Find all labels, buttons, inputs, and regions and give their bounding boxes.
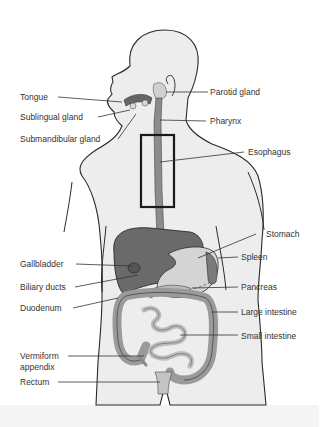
label-parotid-gland: Parotid gland: [210, 87, 260, 97]
label-sublingual-gland: Sublingual gland: [20, 112, 83, 122]
label-duodenum: Duodenum: [20, 303, 62, 313]
label-biliary-ducts: Biliary ducts: [20, 282, 66, 292]
gallbladder: [128, 263, 140, 273]
label-tongue: Tongue: [20, 92, 48, 102]
label-vermiform: Vermiform: [20, 351, 59, 361]
label-esophagus: Esophagus: [248, 147, 291, 157]
label-spleen: Spleen: [241, 252, 267, 262]
label-rectum: Rectum: [20, 377, 49, 387]
label-submandibular-gland: Submandibular gland: [20, 134, 100, 144]
label-gallbladder: Gallbladder: [20, 259, 63, 269]
label-pharynx: Pharynx: [210, 116, 241, 126]
label-stomach: Stomach: [266, 229, 300, 239]
label-large-intestine: Large intestine: [241, 307, 297, 317]
label-pancreas: Pancreas: [241, 282, 277, 292]
label-appendix: appendix: [20, 362, 55, 372]
label-small-intestine: Small intestine: [241, 331, 296, 341]
